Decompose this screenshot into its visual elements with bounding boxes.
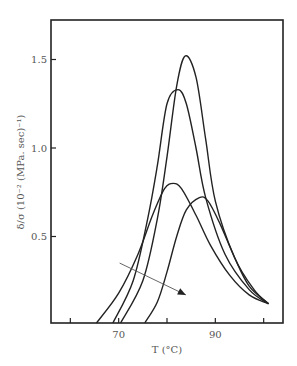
y-tick-label: 1.0	[31, 143, 47, 154]
x-axis: 7090	[70, 318, 263, 340]
y-axis: 0.51.01.5	[31, 54, 56, 242]
data-curves	[96, 56, 268, 323]
series-line	[96, 183, 268, 323]
plot-frame	[51, 20, 283, 323]
series-line	[145, 197, 269, 323]
x-tick-label: 90	[209, 329, 222, 340]
chart: 7090 0.51.01.5 T (°C) δ/σ (10⁻² (MPa. se…	[0, 0, 297, 366]
x-axis-label: T (°C)	[152, 344, 182, 355]
y-tick-label: 0.5	[31, 231, 47, 242]
y-tick-label: 1.5	[31, 54, 47, 65]
x-tick-label: 70	[112, 329, 125, 340]
y-axis-label: δ/σ (10⁻² (MPa. sec)⁻¹)	[15, 114, 26, 229]
